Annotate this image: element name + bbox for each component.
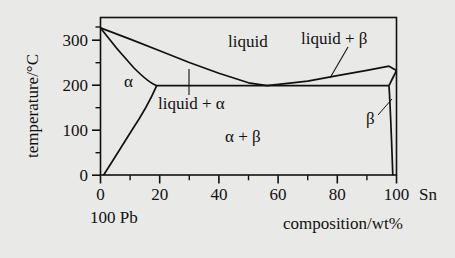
x-axis-left-component-label: 100 Pb [90,209,138,226]
y-tick-label-300: 300 [52,32,88,49]
phase-label-liquid: liquid [228,33,268,50]
leader-liquid-plus-beta [330,47,348,78]
x-tick-label-0: 0 [81,186,121,203]
y-tick-label-100: 100 [52,122,88,139]
x-tick-label-80: 80 [317,186,357,203]
x-axis-minor-ticks [130,175,367,180]
solvus-beta-curve [389,86,393,176]
x-tick-label-100: 100 [377,186,417,203]
x-tick-label-40: 40 [199,186,239,203]
x-axis-right-component-label: Sn [419,186,437,203]
x-tick-label-60: 60 [258,186,298,203]
phase-label-alpha-plus-beta: α + β [225,128,261,145]
phase-label-liquid-plus-alpha: liquid + α [158,95,225,112]
y-tick-label-200: 200 [52,77,88,94]
phase-label-alpha: α [124,73,133,90]
phase-label-liquid-plus-beta: liquid + β [301,30,367,47]
x-axis-title: composition/wt% [283,215,403,232]
y-tick-label-0: 0 [60,167,88,184]
y-axis-title: temperature/°C [23,26,43,186]
phase-diagram-figure: temperature/°C 0 100 200 300 0 20 40 60 … [0,0,455,258]
solvus-alpha-curve [104,86,157,176]
phase-label-beta: β [366,110,375,127]
x-tick-label-20: 20 [140,186,180,203]
solidus-beta-curve [389,71,397,86]
